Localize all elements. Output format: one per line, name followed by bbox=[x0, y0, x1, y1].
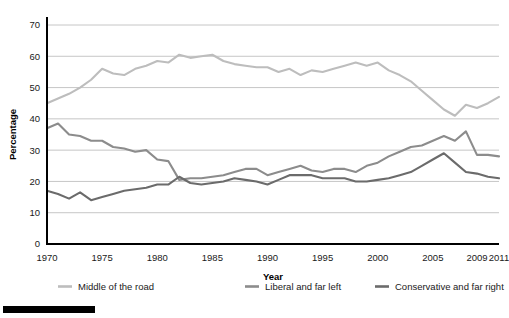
legend-label: Conservative and far right bbox=[395, 281, 504, 292]
line-chart: 010203040506070 197019751980198519901995… bbox=[0, 0, 509, 318]
x-tick-label: 2011 bbox=[489, 252, 509, 263]
legend-label: Middle of the road bbox=[78, 281, 154, 292]
y-tick-label: 20 bbox=[29, 176, 40, 187]
y-tick-label: 60 bbox=[29, 51, 40, 62]
legend-label: Liberal and far left bbox=[265, 281, 341, 292]
series-line-conservative-and-far-right bbox=[47, 153, 499, 200]
x-tick-label: 1990 bbox=[257, 252, 278, 263]
y-axis-title: Percentage bbox=[7, 109, 18, 160]
chart-legend: Middle of the roadLiberal and far leftCo… bbox=[58, 281, 504, 292]
gridlines bbox=[47, 25, 499, 244]
x-tick-label: 1995 bbox=[312, 252, 333, 263]
x-tick-label: 1975 bbox=[92, 252, 113, 263]
y-tick-label: 40 bbox=[29, 113, 40, 124]
x-tick-label: 2000 bbox=[367, 252, 388, 263]
x-axis-tick-labels: 1970197519801985199019952000200520092011 bbox=[36, 252, 509, 263]
series-line-middle-of-the-road bbox=[47, 55, 499, 116]
series-line-liberal-and-far-left bbox=[47, 124, 499, 180]
x-tick-label: 1970 bbox=[36, 252, 57, 263]
y-axis-tick-labels: 010203040506070 bbox=[29, 19, 40, 249]
x-tick-label: 1980 bbox=[147, 252, 168, 263]
chart-container: 010203040506070 197019751980198519901995… bbox=[0, 0, 509, 318]
y-tick-label: 70 bbox=[29, 19, 40, 30]
y-tick-label: 10 bbox=[29, 207, 40, 218]
footer-black-bar bbox=[3, 306, 95, 313]
y-tick-label: 0 bbox=[35, 238, 40, 249]
x-tick-label: 2009 bbox=[466, 252, 487, 263]
y-tick-label: 50 bbox=[29, 82, 40, 93]
x-tick-label: 2005 bbox=[422, 252, 443, 263]
y-tick-label: 30 bbox=[29, 145, 40, 156]
data-series-group bbox=[47, 55, 499, 200]
x-tick-label: 1985 bbox=[202, 252, 223, 263]
